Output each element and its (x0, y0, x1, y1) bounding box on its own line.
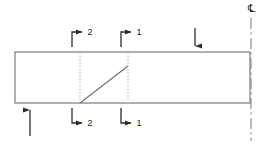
section-marker-bottom-2: 2 (72, 108, 93, 128)
engineering-drawing-canvas: 2 1 2 1 ℄ (0, 0, 266, 144)
section-marker-top-1: 1 (121, 27, 142, 47)
centerline-symbol-icon: ℄ (247, 2, 255, 14)
section-marker-bottom-2-label: 2 (87, 118, 92, 128)
section-marker-top-2-label: 2 (87, 27, 92, 37)
section-marker-top-2: 2 (72, 27, 93, 47)
section-marker-bottom-1: 1 (121, 108, 142, 128)
section-marker-bottom-1-label: 1 (136, 118, 141, 128)
section-marker-top-1-label: 1 (136, 27, 141, 37)
drawing-svg: 2 1 2 1 ℄ (0, 0, 266, 144)
beam-outline (15, 52, 250, 103)
